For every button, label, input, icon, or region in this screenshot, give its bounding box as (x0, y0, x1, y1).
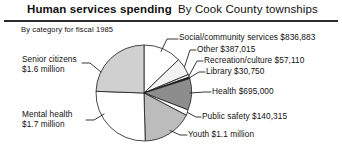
label-social-community-services: Social/community services $836,883 (179, 33, 315, 43)
leader-health (190, 92, 211, 93)
leader-other (185, 50, 197, 67)
label-youth: Youth $1.1 million (188, 130, 254, 140)
label-other: Other $387,015 (197, 45, 255, 55)
leader-public-safety (188, 113, 202, 118)
slice-senior-citizens (96, 45, 144, 93)
label-recreation-culture: Recreation/culture $57,110 (204, 56, 304, 66)
pie-chart (0, 0, 342, 161)
chart-figure: Human services spending By Cook County t… (0, 0, 342, 161)
leader-library (190, 72, 206, 78)
pie-slices (96, 45, 192, 141)
leader-senior (82, 63, 101, 72)
label-mental-health-line2: $1.7 million (22, 120, 65, 130)
label-public-safety: Public safety $140,315 (202, 112, 287, 122)
label-senior-citizens-line2: $1.6 million (22, 65, 65, 75)
leader-youth (170, 131, 187, 136)
slice-mental-health (96, 91, 145, 141)
label-library: Library $30,750 (206, 67, 264, 77)
label-health: Health $695,000 (212, 87, 274, 97)
